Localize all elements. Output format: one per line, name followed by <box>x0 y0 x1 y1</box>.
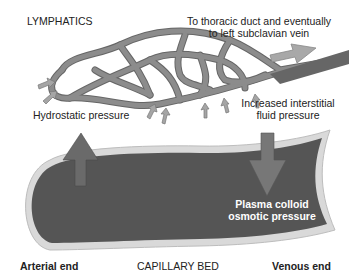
thoracic-duct-label: To thoracic duct and eventually to left … <box>181 15 337 39</box>
lymphatics-label: LYMPHATICS <box>27 15 93 27</box>
arterial-end-label: Arterial end <box>20 260 78 272</box>
interstitial-line-1: Increased interstitial <box>228 97 348 109</box>
venous-end-label: Venous end <box>272 260 331 272</box>
thoracic-line-2: to left subclavian vein <box>181 27 337 39</box>
outflow-arrow-icon <box>270 44 316 63</box>
plasma-line-2: osmotic pressure <box>222 210 322 222</box>
interstitial-line-2: fluid pressure <box>228 109 348 121</box>
lymphatic-network <box>52 31 349 106</box>
plasma-osmotic-label: Plasma colloid osmotic pressure <box>222 198 322 222</box>
hydrostatic-pressure-label: Hydrostatic pressure <box>33 109 129 121</box>
capillary-bed-label: CAPILLARY BED <box>137 260 219 272</box>
capillary-lymph-diagram <box>0 0 349 273</box>
plasma-line-1: Plasma colloid <box>222 198 322 210</box>
interstitial-pressure-label: Increased interstitial fluid pressure <box>228 97 348 121</box>
thoracic-line-1: To thoracic duct and eventually <box>181 15 337 27</box>
